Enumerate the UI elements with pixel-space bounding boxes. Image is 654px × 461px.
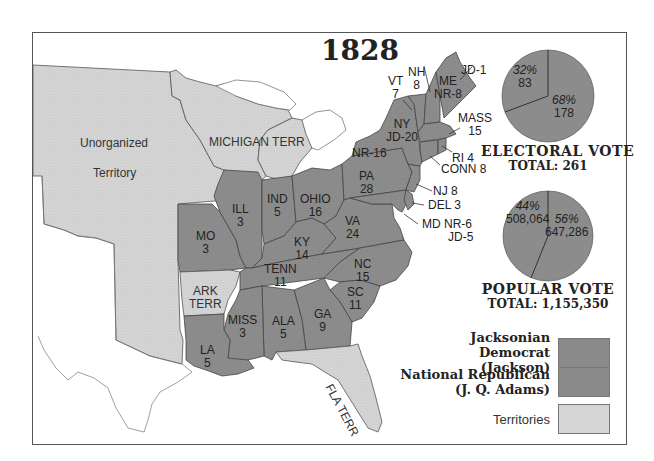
label-state-conn: CONN 8 bbox=[441, 163, 486, 176]
label-state-ohio: OHIO16 bbox=[300, 193, 331, 219]
legend-label: Territories bbox=[493, 412, 550, 427]
popular-vote-caption: POPULAR VOTE TOTAL: 1,155,350 bbox=[478, 281, 618, 311]
label-state-la: LA5 bbox=[200, 344, 215, 370]
label-state-va: VA24 bbox=[345, 215, 360, 241]
legend-item-territories: Territories bbox=[493, 404, 610, 434]
label-state-vt: VT7 bbox=[388, 75, 403, 101]
electoral-vote-caption: ELECTORAL VOTE TOTAL: 261 bbox=[481, 143, 615, 173]
label-state-me-jd: JD-1 bbox=[461, 64, 486, 77]
label-state-ny-nr: NR-16 bbox=[352, 147, 387, 160]
label-state-del: DEL 3 bbox=[428, 199, 461, 212]
legend-label: National Republican(J. Q. Adams) bbox=[400, 367, 550, 397]
legend-swatch-national-republican bbox=[558, 367, 610, 397]
electoral-nr-slice-label: 32%83 bbox=[513, 64, 537, 90]
state-massachusetts bbox=[418, 122, 456, 142]
popular-jd-slice-label: 56%647,286 bbox=[545, 213, 588, 239]
label-state-ala: ALA5 bbox=[272, 315, 295, 341]
label-state-md-jd: JD-5 bbox=[448, 231, 473, 244]
label-state-nh: NH8 bbox=[408, 66, 425, 92]
label-state-ill: ILL3 bbox=[232, 203, 249, 229]
label-state-mass: MASS15 bbox=[458, 112, 492, 138]
label-state-nc: NC15 bbox=[354, 258, 371, 284]
legend-swatch-jacksonian-democrat bbox=[558, 338, 610, 368]
label-state-pa: PA28 bbox=[359, 170, 374, 196]
label-state-ky: KY14 bbox=[294, 236, 310, 262]
label-unorganized-territory: Unorganized bbox=[80, 137, 148, 150]
label-state-tenn: TENN11 bbox=[264, 263, 297, 289]
label-arkansas-territory: ARKTERR bbox=[189, 285, 222, 311]
state-connecticut bbox=[420, 140, 438, 162]
label-unorganized-territory-line2: Territory bbox=[93, 167, 136, 180]
label-michigan-territory: MICHIGAN TERR bbox=[209, 136, 305, 149]
electoral-jd-slice-label: 68%178 bbox=[552, 94, 576, 120]
label-state-ind: IND5 bbox=[267, 193, 288, 219]
label-state-miss: MISS3 bbox=[228, 314, 257, 340]
label-state-mo: MO3 bbox=[196, 230, 215, 256]
label-state-me: MENR-8 bbox=[434, 75, 462, 101]
legend-item-national-republican: National Republican(J. Q. Adams) bbox=[400, 367, 610, 397]
state-delaware bbox=[404, 190, 414, 210]
label-state-ga: GA9 bbox=[314, 308, 331, 334]
label-state-sc: SC11 bbox=[347, 286, 364, 312]
label-state-ny: NYJD-20 bbox=[386, 118, 418, 144]
popular-nr-slice-label: 44%508,064 bbox=[506, 200, 549, 226]
map-title: 1828 bbox=[305, 34, 415, 67]
label-state-nj: NJ 8 bbox=[433, 185, 458, 198]
legend-swatch-territories bbox=[558, 404, 610, 434]
